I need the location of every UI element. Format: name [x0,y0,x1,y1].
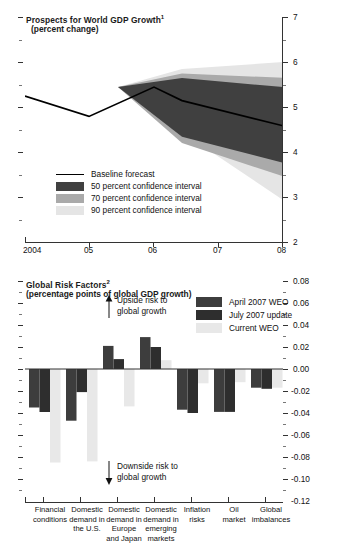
y-tick-label: 0.00 [293,364,309,374]
bar-current-weo [50,369,61,463]
left-tick-minor [19,314,22,315]
y-tick-label: -0.08 [291,452,310,462]
y-tick-label: -0.02 [291,386,310,396]
left-tick-major [18,457,23,458]
left-tick-minor [19,85,22,86]
left-tick-minor [19,292,22,293]
arrow-up-icon [104,295,114,319]
left-tick-minor [19,402,22,403]
left-tick-minor [19,130,22,131]
legend-swatch-current-icon [196,323,222,333]
annotation-line: global growth [117,306,167,317]
left-tick-major [18,152,23,153]
legend-swatch-april-icon [196,297,222,307]
y-tick-label: 5 [293,102,298,112]
y-tick-label: 0.04 [293,320,309,330]
bar-current-weo [124,369,135,406]
left-tick-major [18,281,23,282]
x-axis-left-cap [25,497,26,503]
left-tick-minor [19,358,22,359]
annotation-line: Downside risk to [117,461,178,472]
left-tick-minor [19,490,22,491]
left-tick-major [18,107,23,108]
right-tick-6-hidden [283,62,288,63]
legend-label: July 2007 update [229,310,292,320]
bar-april-2007-weo [251,369,262,388]
legend-label: Baseline forecast [91,169,155,179]
x-tick-label-07: 07 [213,245,222,255]
bar-current-weo [198,369,209,383]
right-tick [283,281,288,282]
bar-group-domestic-demand-emerging [140,337,172,369]
bar-april-2007-weo [177,369,188,410]
x-cat-tick [117,497,118,503]
bar-current-weo [87,369,98,461]
left-tick-major [18,479,23,480]
panel-prospects-for-world-gdp-growth: Prospects for World GDP Growth1 (percent… [0,0,347,252]
bar-july-2007-update [262,369,273,389]
y-tick-label: -0.04 [291,408,310,418]
y-tick-label: 2 [293,237,298,247]
left-tick-minor [19,175,22,176]
left-tick-major [18,435,23,436]
legend-swatch-90-icon [56,206,84,215]
legend-item-baseline-forecast: Baseline forecast [56,168,202,180]
bar-july-2007-update [225,369,236,412]
arrow-down-icon [104,461,114,485]
annotation-downside-risk [104,461,114,485]
x-tick-label-08: 08 [277,245,286,255]
bar-group-oil-market [214,369,246,412]
left-tick-major [18,17,23,18]
legend-swatch-70-icon [56,194,84,203]
right-tick-minor [283,336,286,337]
left-tick-minor [19,40,22,41]
legend-label: 90 percent confidence interval [91,205,202,215]
right-tick [283,413,288,414]
right-tick [283,435,288,436]
right-tick-minor [283,490,286,491]
y-tick-label: 0.06 [293,298,309,308]
right-tick [283,391,288,392]
right-tick-minor [283,85,286,86]
right-tick-5 [283,107,288,108]
legend-item-april-2007-weo: April 2007 WEO [196,295,292,308]
bar-group-financial-conditions [29,369,61,463]
right-tick-minor [283,358,286,359]
left-tick-major [18,347,23,348]
left-tick-minor [19,424,22,425]
left-tick-major [18,197,23,198]
legend-item-70-percent: 70 percent confidence interval [56,192,202,204]
bar-july-2007-update [188,369,199,413]
x-cat-tick [265,497,266,503]
right-tick-minor [283,175,286,176]
left-tick-minor [19,380,22,381]
category-label-line: Global [242,505,300,515]
right-tick [283,369,288,370]
right-tick-minor [283,40,286,41]
bar-group-inflation-risks [177,369,209,413]
x-axis-left-cap [25,237,26,243]
right-tick [283,347,288,348]
bar-current-weo [272,369,283,388]
bar-current-weo [235,369,246,382]
legend-global-risk-factors: April 2007 WEO July 2007 update Current … [196,295,292,334]
right-tick-minor [283,220,286,221]
bar-july-2007-update [151,347,162,369]
bar-group-domestic-demand-us [66,369,98,461]
right-tick [283,457,288,458]
legend-swatch-50-icon [56,182,84,191]
figure-root: Prospects for World GDP Growth1 (percent… [0,0,347,557]
right-tick-minor [283,130,286,131]
panel-global-risk-factors: Global Risk Factors2 (percentage points … [0,262,347,557]
left-tick-minor [19,220,22,221]
annotation-upside-risk [104,295,114,319]
left-tick-major [18,391,23,392]
right-tick-minor [283,402,286,403]
left-tick-major [18,303,23,304]
y-tick-label: 3 [293,192,298,202]
annotation-line: global growth [117,472,178,483]
y-tick-label: 0.08 [293,276,309,286]
annotation-upside-risk-text: Upside risk to global growth [117,295,167,316]
bar-april-2007-weo [214,369,225,412]
x-tick-label-06: 06 [148,245,157,255]
